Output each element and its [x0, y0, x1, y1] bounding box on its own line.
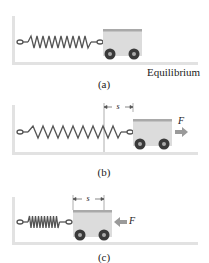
spring-icon: [17, 216, 72, 228]
wall: [12, 197, 15, 245]
panel-c-drawing: [0, 0, 209, 263]
displacement-label-c: s: [85, 195, 90, 203]
cart-icon: [73, 210, 112, 241]
force-label-c: F: [129, 216, 135, 226]
force-arrow-left-icon: [114, 217, 127, 227]
floor: [12, 242, 198, 245]
caption-c: (c): [98, 252, 110, 263]
